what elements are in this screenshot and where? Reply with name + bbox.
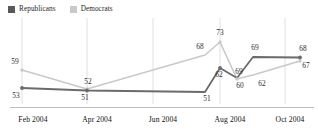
data-label-dem-pre-aug: 68 — [196, 42, 204, 51]
x-axis: Feb 2004 Apr 2004 Jun 2004 Aug 2004 Oct … — [0, 113, 318, 133]
x-tick-2: Jun 2004 — [149, 115, 177, 124]
data-label-dem-dip: 69 — [235, 67, 243, 76]
plot-area: 59 52 68 73 69 62 67 53 51 51 62 60 69 6… — [0, 18, 318, 113]
x-tick-4: Oct 2004 — [276, 115, 305, 124]
data-label-dem-oct: 67 — [302, 61, 310, 70]
legend-item-democrats: Democrats — [70, 6, 113, 13]
data-label-rep-feb: 53 — [12, 91, 20, 100]
data-label-rep-apr: 51 — [81, 93, 89, 102]
data-label-dem-apr: 52 — [84, 77, 92, 86]
data-label-rep-pre-aug: 51 — [203, 94, 211, 103]
x-tick-1: Apr 2004 — [82, 115, 112, 124]
data-label-rep-step: 69 — [251, 43, 259, 52]
legend-swatch-democrats — [70, 6, 77, 13]
x-tick-3: Aug 2004 — [215, 115, 246, 124]
data-label-dem-mid: 62 — [258, 79, 266, 88]
legend-label-republicans: Republicans — [19, 6, 56, 13]
data-label-rep-oct: 68 — [299, 44, 307, 53]
chart-legend: Republicans Democrats — [8, 4, 113, 16]
legend-label-democrats: Democrats — [81, 6, 113, 13]
legend-swatch-republicans — [8, 6, 15, 13]
x-tick-0: Feb 2004 — [18, 115, 47, 124]
data-label-rep-aug: 62 — [215, 70, 223, 79]
plot-svg: 59 52 68 73 69 62 67 53 51 51 62 60 69 6… — [0, 18, 318, 113]
data-label-rep-dip: 60 — [236, 81, 244, 90]
data-label-dem-feb: 59 — [11, 57, 19, 66]
legend-item-republicans: Republicans — [8, 6, 56, 13]
line-chart: Republicans Democrats — [0, 0, 318, 133]
data-label-dem-aug: 73 — [216, 28, 224, 37]
